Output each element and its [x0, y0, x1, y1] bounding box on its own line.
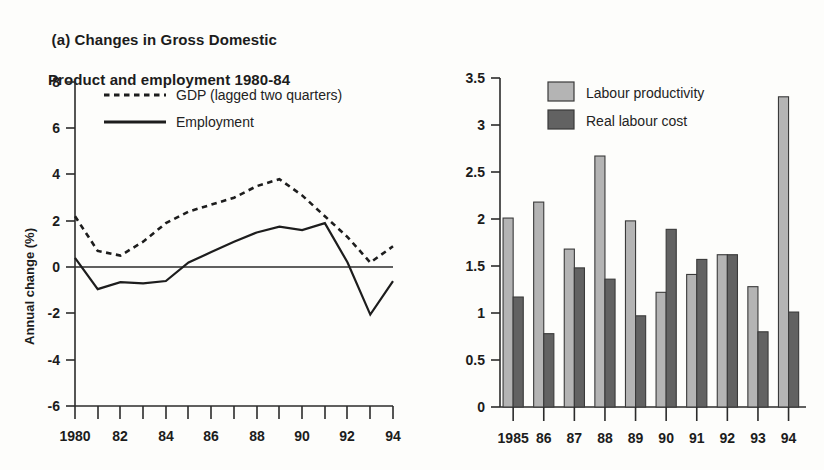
bar-92-real-labour-cost	[727, 255, 737, 407]
panel-b-x-ticks: 1985868788899091929394	[498, 407, 797, 446]
panel-b-xtick-label-87: 87	[567, 430, 583, 446]
panel-a-ytick-neg2: -2	[48, 305, 61, 321]
bar-91-real-labour-cost	[697, 259, 707, 407]
panel-a-ytick-8: 8	[52, 74, 60, 90]
panel-a-xtick-94: 94	[385, 428, 401, 444]
panel-b-ytick-0p5: 0.5	[466, 352, 486, 368]
legend-label-real-labour-cost: Real labour cost	[586, 113, 687, 129]
panel-b-xtick-label-90: 90	[658, 430, 674, 446]
panel-b-plot: 3.5 3 2.5 2 1.5 1 0.5 0 1985868788899091…	[412, 0, 824, 470]
bar-92-labour-productivity	[717, 255, 727, 407]
panel-a-x-ticks: 1980 82 84 86 88 90 92 94	[59, 406, 401, 444]
bar-86-labour-productivity	[534, 202, 544, 407]
legend-label-gdp: GDP (lagged two quarters)	[176, 87, 342, 103]
legend-swatch-labour-productivity	[548, 82, 574, 101]
panel-b-bars	[503, 97, 799, 407]
panel-a-plot: 8 6 4 2 0 -2 -4 -6	[0, 0, 412, 470]
bar-1985-real-labour-cost	[513, 297, 523, 407]
bar-88-labour-productivity	[595, 156, 605, 407]
panel-a-series-employment	[75, 223, 393, 314]
panel-a-ytick-0: 0	[52, 259, 60, 275]
panel-a-line-chart: (a) Changes in Gross Domestic Product an…	[0, 0, 412, 470]
panel-b-ytick-2: 2	[477, 211, 485, 227]
panel-b-ytick-2p5: 2.5	[466, 164, 486, 180]
panel-a-y-ticks: 8 6 4 2 0 -2 -4 -6	[48, 74, 75, 414]
bar-90-real-labour-cost	[666, 229, 676, 407]
bar-93-real-labour-cost	[758, 332, 768, 407]
panel-b-xtick-label-89: 89	[628, 430, 644, 446]
panel-b-xtick-label-88: 88	[597, 430, 613, 446]
bar-89-labour-productivity	[625, 221, 635, 407]
legend-swatch-real-labour-cost	[548, 110, 574, 129]
bar-87-labour-productivity	[564, 249, 574, 407]
panel-b-ytick-3p5: 3.5	[466, 70, 486, 86]
panel-b-bar-chart: (b) Growth in labour productivity and re…	[412, 0, 824, 470]
panel-b-ytick-3: 3	[477, 117, 485, 133]
panel-b-xtick-label-86: 86	[536, 430, 552, 446]
panel-b-xtick-label-93: 93	[750, 430, 766, 446]
panel-b-xtick-label-1985: 1985	[498, 430, 529, 446]
panel-a-xtick-82: 82	[112, 428, 128, 444]
bar-93-labour-productivity	[748, 287, 758, 407]
panel-a-xtick-1980: 1980	[59, 428, 90, 444]
bar-87-real-labour-cost	[574, 268, 584, 407]
panel-b-xtick-label-94: 94	[781, 430, 797, 446]
panel-a-xtick-90: 90	[294, 428, 310, 444]
panel-a-xtick-88: 88	[249, 428, 265, 444]
panel-b-ytick-1: 1	[477, 305, 485, 321]
bar-89-real-labour-cost	[636, 316, 646, 407]
bar-94-real-labour-cost	[789, 312, 799, 407]
panel-b-y-ticks: 3.5 3 2.5 2 1.5 1 0.5 0	[466, 70, 500, 415]
figure-container: (a) Changes in Gross Domestic Product an…	[0, 0, 824, 470]
legend-label-employment: Employment	[176, 114, 254, 130]
panel-a-legend: GDP (lagged two quarters) Employment	[104, 87, 342, 130]
bar-86-real-labour-cost	[544, 334, 554, 407]
bar-88-real-labour-cost	[605, 279, 615, 407]
panel-a-xtick-92: 92	[339, 428, 355, 444]
panel-b-xtick-label-91: 91	[689, 430, 705, 446]
panel-a-ytick-neg6: -6	[48, 398, 61, 414]
bar-91-labour-productivity	[687, 274, 697, 407]
panel-a-xtick-86: 86	[203, 428, 219, 444]
bar-94-labour-productivity	[778, 97, 788, 407]
panel-b-legend: Labour productivity Real labour cost	[548, 82, 704, 129]
panel-a-ytick-4: 4	[52, 166, 60, 182]
panel-b-ytick-0: 0	[477, 399, 485, 415]
panel-b-ytick-1p5: 1.5	[466, 258, 486, 274]
bar-90-labour-productivity	[656, 292, 666, 407]
panel-a-ytick-neg4: -4	[48, 352, 61, 368]
panel-b-xtick-label-92: 92	[720, 430, 736, 446]
bar-1985-labour-productivity	[503, 218, 513, 407]
panel-a-ytick-2: 2	[52, 213, 60, 229]
panel-a-ytick-6: 6	[52, 120, 60, 136]
legend-label-labour-productivity: Labour productivity	[586, 85, 704, 101]
panel-a-series-gdp	[75, 179, 393, 262]
panel-a-xtick-84: 84	[158, 428, 174, 444]
